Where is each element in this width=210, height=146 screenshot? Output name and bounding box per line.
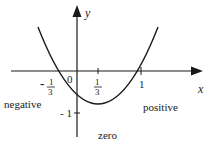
region-label-positive: positive bbox=[143, 101, 178, 113]
tick-label-third-num: 1 bbox=[95, 77, 100, 87]
x-axis-label: x bbox=[197, 82, 204, 96]
y-axis-label: y bbox=[84, 6, 91, 20]
tick-label-third-den: 3 bbox=[95, 87, 100, 97]
tick-label-neg-third-num: 1 bbox=[49, 77, 54, 87]
region-label-negative: negative bbox=[4, 98, 41, 110]
tick-label-neg-third-sign: - bbox=[40, 76, 44, 91]
origin-label: 0 bbox=[67, 73, 73, 85]
tick-label-y-neg-one: - 1 bbox=[60, 107, 72, 119]
tick-label-one: 1 bbox=[139, 78, 145, 90]
x-axis-arrow-icon bbox=[191, 67, 203, 76]
y-axis-arrow-icon bbox=[73, 5, 82, 17]
region-label-zero: zero bbox=[98, 129, 117, 141]
tick-label-neg-third-den: 3 bbox=[48, 87, 53, 97]
function-graph: y x 0 - 1 3 1 3 1 - 1 negative zero posi… bbox=[0, 0, 210, 146]
